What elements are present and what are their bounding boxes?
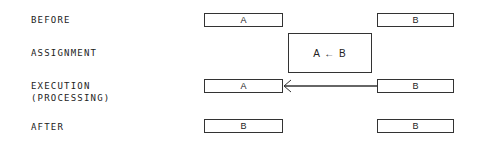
after-box-b: B <box>377 119 454 133</box>
after-box-a: B <box>204 119 283 133</box>
assignment-diagram: BEFORE ASSIGNMENT EXECUTION (PROCESSING)… <box>0 0 483 144</box>
